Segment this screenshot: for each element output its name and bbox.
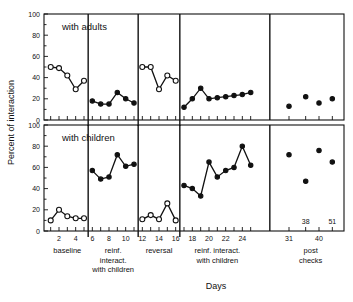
data-point-adults-1-5 bbox=[132, 101, 136, 105]
data-point-adults-0-2 bbox=[65, 73, 70, 78]
phase-label-3-1: with children bbox=[195, 256, 238, 265]
x-tick-label-24: 24 bbox=[238, 235, 246, 242]
x-axis-label: Days bbox=[206, 281, 227, 291]
data-point-adults-0-4 bbox=[82, 78, 87, 83]
y-tick-label-lower-20: 20 bbox=[32, 206, 40, 213]
figure-root: 0204060801000204060801002468101214161820… bbox=[0, 0, 353, 302]
phase-label-4-1: checks bbox=[299, 256, 323, 265]
y-tick-label-upper-60: 60 bbox=[32, 53, 40, 60]
y-tick-label-upper-100: 100 bbox=[28, 11, 40, 18]
data-point-adults-3-8 bbox=[249, 90, 253, 94]
data-point-children-1-3 bbox=[115, 153, 119, 157]
phase-label-4-0: post bbox=[304, 246, 319, 255]
data-point-children-1-2 bbox=[107, 175, 111, 179]
data-point-adults-3-7 bbox=[240, 92, 244, 96]
data-point-adults-4-1 bbox=[304, 95, 308, 99]
x-tick-label-22: 22 bbox=[222, 235, 230, 242]
y-tick-label-upper-40: 40 bbox=[32, 74, 40, 81]
y-tick-label-upper-80: 80 bbox=[32, 32, 40, 39]
x-tick-label-31: 31 bbox=[285, 235, 293, 242]
data-point-adults-1-3 bbox=[115, 90, 119, 94]
data-point-adults-3-1 bbox=[190, 97, 194, 101]
data-point-adults-2-3 bbox=[165, 73, 170, 78]
y-tick-label-lower-60: 60 bbox=[32, 164, 40, 171]
data-point-adults-3-6 bbox=[232, 93, 236, 97]
data-point-children-0-1 bbox=[57, 207, 62, 212]
data-point-children-0-3 bbox=[73, 216, 78, 221]
data-point-children-3-8 bbox=[249, 163, 253, 167]
data-point-children-1-4 bbox=[124, 164, 128, 168]
data-point-children-3-7 bbox=[240, 144, 244, 148]
x-tick-label-8: 8 bbox=[107, 235, 111, 242]
data-point-children-3-0 bbox=[182, 183, 186, 187]
data-point-adults-3-2 bbox=[199, 86, 203, 90]
data-point-adults-1-2 bbox=[107, 102, 111, 106]
data-point-children-2-3 bbox=[165, 201, 170, 206]
data-point-children-3-3 bbox=[207, 160, 211, 164]
data-point-children-4-1 bbox=[304, 179, 308, 183]
x-tick-label-12: 12 bbox=[138, 235, 146, 242]
data-point-children-4-2 bbox=[317, 148, 321, 152]
data-point-adults-0-1 bbox=[57, 66, 62, 71]
x-tick-label-2: 2 bbox=[57, 235, 61, 242]
data-point-adults-2-4 bbox=[173, 78, 178, 83]
data-point-children-2-2 bbox=[157, 217, 162, 222]
data-point-adults-2-0 bbox=[140, 65, 145, 70]
x-tick-label-16: 16 bbox=[172, 235, 180, 242]
phase-label-1-2: with children bbox=[91, 265, 134, 274]
data-point-adults-3-3 bbox=[207, 97, 211, 101]
x-tick-label-18: 18 bbox=[188, 235, 196, 242]
phase-label-1-1: interact. bbox=[100, 256, 127, 265]
data-point-adults-2-1 bbox=[148, 65, 153, 70]
y-tick-label-upper-20: 20 bbox=[32, 95, 40, 102]
y-tick-label-lower-0: 0 bbox=[36, 228, 40, 235]
data-point-children-4-3 bbox=[330, 160, 334, 164]
data-point-children-3-6 bbox=[232, 165, 236, 169]
data-point-adults-0-0 bbox=[48, 65, 53, 70]
data-point-adults-1-0 bbox=[90, 99, 94, 103]
data-point-children-4-0 bbox=[287, 153, 291, 157]
data-point-children-3-5 bbox=[224, 168, 228, 172]
annotation-51: 51 bbox=[328, 218, 336, 225]
x-tick-label-14: 14 bbox=[155, 235, 163, 242]
data-point-children-3-1 bbox=[190, 186, 194, 190]
data-point-children-1-5 bbox=[132, 162, 136, 166]
data-point-adults-0-3 bbox=[73, 87, 78, 92]
data-point-children-2-4 bbox=[173, 218, 178, 223]
data-point-adults-3-5 bbox=[224, 95, 228, 99]
data-point-children-2-1 bbox=[148, 213, 153, 218]
data-point-adults-3-0 bbox=[182, 105, 186, 109]
data-point-children-0-4 bbox=[82, 216, 87, 221]
data-point-children-3-4 bbox=[215, 175, 219, 179]
y-tick-label-lower-40: 40 bbox=[32, 185, 40, 192]
data-point-adults-3-4 bbox=[215, 96, 219, 100]
panel-title-children: with children bbox=[61, 132, 115, 143]
phase-label-3-0: reinf. interact. bbox=[195, 246, 240, 255]
x-tick-label-20: 20 bbox=[205, 235, 213, 242]
y-axis-label: Percent of interaction bbox=[6, 80, 16, 165]
annotation-38: 38 bbox=[302, 218, 310, 225]
phase-label-2-0: reversal bbox=[146, 246, 173, 255]
data-point-adults-1-1 bbox=[99, 102, 103, 106]
y-tick-label-lower-80: 80 bbox=[32, 143, 40, 150]
data-point-children-3-2 bbox=[199, 194, 203, 198]
phase-label-1-0: reinf. bbox=[105, 246, 122, 255]
data-point-children-1-1 bbox=[99, 177, 103, 181]
x-tick-label-6: 6 bbox=[90, 235, 94, 242]
data-point-adults-1-4 bbox=[124, 97, 128, 101]
x-tick-label-40: 40 bbox=[315, 235, 323, 242]
data-point-adults-2-2 bbox=[157, 87, 162, 92]
data-point-adults-4-0 bbox=[287, 104, 291, 108]
data-point-adults-4-3 bbox=[330, 97, 334, 101]
data-point-children-0-2 bbox=[65, 214, 70, 219]
panel-title-adults: with adults bbox=[61, 21, 107, 32]
y-tick-label-lower-100: 100 bbox=[28, 122, 40, 129]
data-point-adults-4-2 bbox=[317, 101, 321, 105]
x-tick-label-10: 10 bbox=[122, 235, 130, 242]
data-point-children-2-0 bbox=[140, 217, 145, 222]
phase-label-0-0: baseline bbox=[53, 246, 81, 255]
series-line-adults-2 bbox=[142, 67, 175, 89]
data-point-children-1-0 bbox=[90, 168, 94, 172]
data-point-children-0-0 bbox=[48, 218, 53, 223]
x-tick-label-4: 4 bbox=[74, 235, 78, 242]
